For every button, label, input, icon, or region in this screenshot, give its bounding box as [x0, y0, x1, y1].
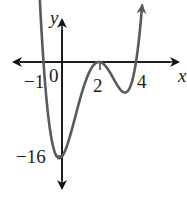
x-axis-label: x: [178, 66, 186, 85]
tick-label-neg16: −16: [16, 147, 46, 166]
function-graph: [0, 0, 187, 202]
tick-label-4: 4: [137, 72, 147, 91]
tick-label-neg1: −1: [24, 72, 44, 91]
tick-label-2: 2: [93, 76, 103, 95]
tick-label-0: 0: [49, 66, 59, 85]
y-axis-label: y: [50, 8, 58, 27]
